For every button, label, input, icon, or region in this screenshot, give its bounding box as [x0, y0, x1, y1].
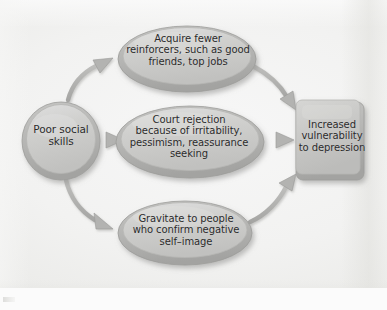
connector-path-2-to-outcome	[250, 174, 296, 222]
node-poor-social-skills[interactable]	[22, 102, 100, 180]
node-acquire-fewer-reinforcers[interactable]	[118, 26, 256, 92]
connector-path-1-to-outcome	[266, 132, 294, 148]
connector-path-0-to-outcome	[253, 66, 296, 110]
diagram-graphics	[0, 0, 387, 310]
scan-artifact-mark	[3, 297, 15, 302]
node-increased-vulnerability[interactable]	[296, 100, 364, 180]
connector-source-to-path-2	[66, 180, 113, 229]
page-margin-strip	[0, 288, 387, 310]
node-gravitate-to-people[interactable]	[118, 201, 252, 265]
figure-canvas: Poor social skills Acquire fewer reinfor…	[0, 0, 387, 310]
node-court-rejection[interactable]	[116, 106, 264, 178]
connector-source-to-path-0	[68, 58, 113, 100]
